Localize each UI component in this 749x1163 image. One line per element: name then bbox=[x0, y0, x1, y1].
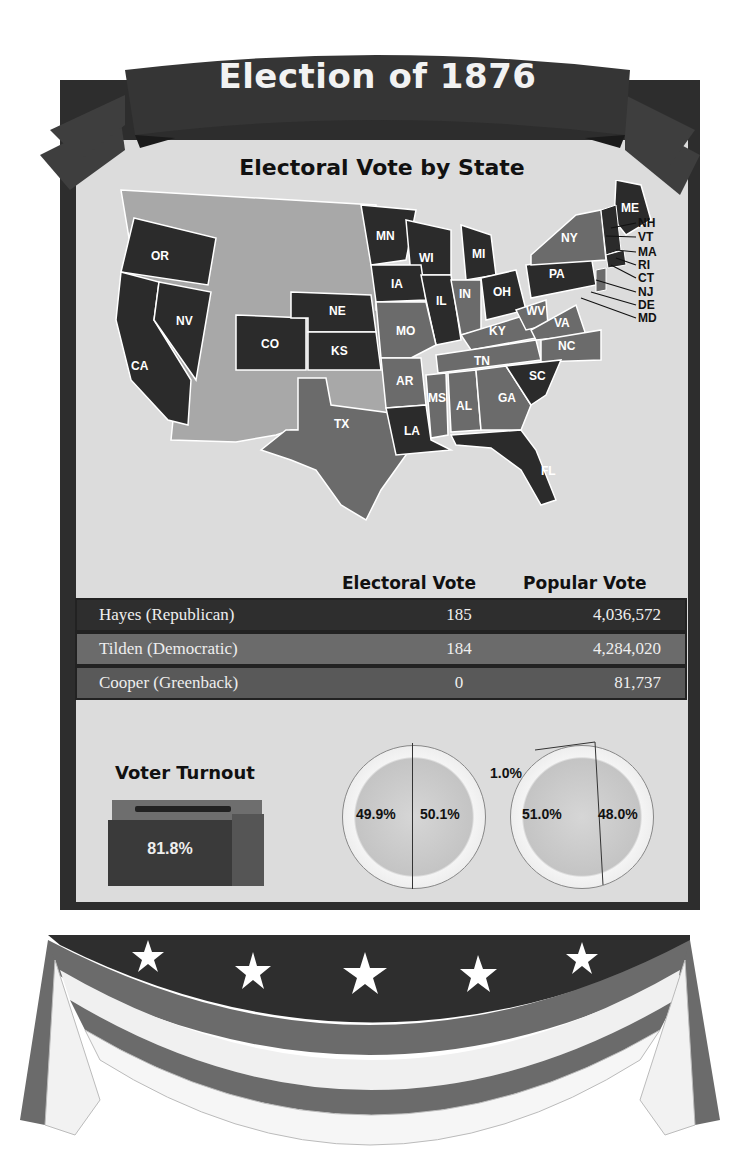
ballot-box-side bbox=[232, 814, 264, 886]
svg-text:AR: AR bbox=[396, 374, 414, 388]
map-title: Electoral Vote by State bbox=[76, 155, 688, 180]
popular-vote: 4,284,020 bbox=[519, 639, 685, 659]
svg-text:MA: MA bbox=[638, 245, 657, 259]
svg-text:WV: WV bbox=[526, 304, 545, 318]
svg-text:MS: MS bbox=[428, 391, 446, 405]
svg-text:OR: OR bbox=[151, 249, 169, 263]
svg-text:NJ: NJ bbox=[638, 285, 653, 299]
svg-text:CA: CA bbox=[131, 359, 149, 373]
table-row: Tilden (Democratic) 184 4,284,020 bbox=[75, 632, 687, 666]
electoral-vote: 185 bbox=[399, 605, 519, 625]
voter-turnout-title: Voter Turnout bbox=[115, 762, 255, 783]
svg-text:MO: MO bbox=[396, 324, 415, 338]
svg-text:NC: NC bbox=[558, 339, 576, 353]
svg-text:NH: NH bbox=[638, 216, 655, 230]
svg-text:FL: FL bbox=[541, 464, 556, 478]
pie-divider bbox=[412, 743, 413, 889]
header-electoral-vote: Electoral Vote bbox=[342, 573, 476, 593]
svg-text:LA: LA bbox=[404, 424, 420, 438]
svg-text:SC: SC bbox=[529, 369, 546, 383]
voter-turnout-value: 81.8% bbox=[108, 840, 232, 858]
popular-pie-tilden: 51.0% bbox=[522, 806, 562, 822]
patriotic-bunting bbox=[0, 900, 749, 1163]
svg-text:NE: NE bbox=[329, 304, 346, 318]
popular-vote: 81,737 bbox=[519, 673, 685, 693]
popular-pie-cooper: 1.0% bbox=[490, 765, 522, 781]
svg-text:TN: TN bbox=[474, 354, 490, 368]
svg-text:OH: OH bbox=[493, 285, 511, 299]
table-row: Hayes (Republican) 185 4,036,572 bbox=[75, 598, 687, 632]
svg-text:PA: PA bbox=[549, 267, 565, 281]
svg-text:VA: VA bbox=[554, 316, 570, 330]
svg-text:TX: TX bbox=[334, 417, 349, 431]
candidate-name: Cooper (Greenback) bbox=[77, 673, 399, 693]
candidate-name: Hayes (Republican) bbox=[77, 605, 399, 625]
svg-text:KS: KS bbox=[331, 344, 348, 358]
svg-text:DE: DE bbox=[638, 298, 655, 312]
svg-text:WI: WI bbox=[419, 251, 434, 265]
svg-text:IA: IA bbox=[391, 277, 403, 291]
svg-text:AL: AL bbox=[456, 399, 472, 413]
svg-text:ME: ME bbox=[621, 201, 639, 215]
candidate-name: Tilden (Democratic) bbox=[77, 639, 399, 659]
svg-text:CO: CO bbox=[261, 337, 279, 351]
svg-text:IL: IL bbox=[436, 294, 447, 308]
svg-text:IN: IN bbox=[459, 287, 471, 301]
popular-pie-hayes: 48.0% bbox=[598, 806, 638, 822]
svg-text:NV: NV bbox=[176, 314, 193, 328]
header-popular-vote: Popular Vote bbox=[523, 573, 647, 593]
svg-text:VT: VT bbox=[638, 230, 654, 244]
table-row: Cooper (Greenback) 0 81,737 bbox=[75, 666, 687, 700]
svg-text:NY: NY bbox=[561, 231, 578, 245]
svg-text:KY: KY bbox=[489, 324, 506, 338]
svg-text:RI: RI bbox=[638, 258, 650, 272]
popular-vote: 4,036,572 bbox=[519, 605, 685, 625]
electoral-pie-tilden: 49.9% bbox=[356, 806, 396, 822]
page-title: Election of 1876 bbox=[125, 56, 630, 96]
svg-text:MN: MN bbox=[376, 229, 395, 243]
us-electoral-map: OR CA NV CO NE KS MN WI MI IA IL IN OH M… bbox=[76, 180, 688, 560]
ballot-box-slot bbox=[135, 806, 231, 812]
svg-text:MI: MI bbox=[472, 247, 485, 261]
svg-text:MD: MD bbox=[638, 311, 657, 325]
svg-text:GA: GA bbox=[498, 391, 516, 405]
electoral-vote: 184 bbox=[399, 639, 519, 659]
svg-text:CT: CT bbox=[638, 271, 655, 285]
electoral-pie-hayes: 50.1% bbox=[420, 806, 460, 822]
electoral-vote: 0 bbox=[399, 673, 519, 693]
